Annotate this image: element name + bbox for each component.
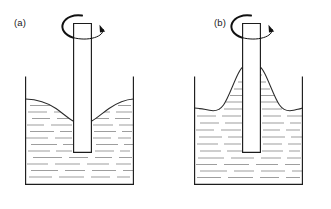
panel-b-label: (b) (214, 17, 226, 28)
diagram-canvas: (a) (0, 0, 331, 209)
panel-a-label: (a) (14, 17, 26, 28)
panel-a-rod (74, 24, 92, 153)
panel-b-rod (243, 24, 261, 153)
figure-container: (a) (0, 0, 331, 209)
